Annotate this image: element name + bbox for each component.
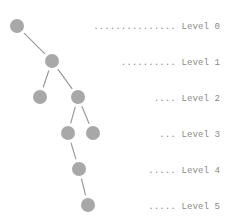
tree-node-n1 [45,54,59,68]
level-4-label: ..... Level 4 [148,165,220,176]
level-1-label: .......... Level 1 [121,57,221,68]
tree-node-n0 [10,19,24,33]
level-5-label: ..... Level 5 [148,201,220,212]
edge-n0-n1 [24,33,45,54]
nodes [10,19,100,212]
level-3-label: ... Level 3 [159,129,220,140]
edge-n2b-n3b [82,106,89,124]
edge-n2b-n3a [71,107,76,124]
tree-node-n4 [72,162,86,176]
tree-node-n2a [33,90,47,104]
tree-node-n5 [81,198,95,212]
edge-n4-n5 [81,179,85,196]
tree-node-n2b [71,90,85,104]
level-labels: ............... Level 0 .......... Level… [93,21,220,212]
edge-n1-n2a [43,70,49,87]
level-2-label: .... Level 2 [154,93,220,104]
tree-node-n3a [61,126,75,140]
tree-node-n3b [86,126,100,140]
tree-diagram: ............... Level 0 .......... Level… [0,0,226,224]
level-0-label: ............... Level 0 [93,21,220,32]
edge-n3a-n4 [71,143,76,160]
edge-n1-n2b [58,69,72,89]
